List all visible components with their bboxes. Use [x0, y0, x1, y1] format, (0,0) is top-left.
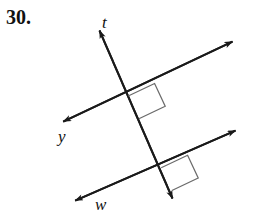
line-label-y: y — [58, 128, 66, 145]
line-y — [63, 42, 232, 122]
geometry-figure — [0, 0, 258, 223]
line-label-w: w — [95, 196, 106, 213]
line-label-t: t — [102, 14, 107, 31]
figure-page: 30. t y w — [0, 0, 258, 223]
line-y-right-arrow — [63, 42, 232, 122]
line-w — [75, 131, 235, 201]
line-w-right-arrow — [75, 131, 235, 201]
